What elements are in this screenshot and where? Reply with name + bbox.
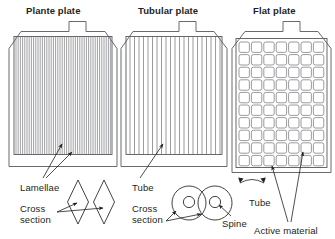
tubular-cross-section-shapes (172, 186, 232, 220)
lamellae-label: Lamellae (20, 182, 59, 193)
plante-plate-outline (9, 22, 117, 167)
battery-plate-types-diagram: Plante plate Tubular plate Flat plate La… (0, 0, 335, 239)
plante-cross-section-shapes (68, 180, 115, 224)
plante-plate-title: Plante plate (26, 5, 81, 16)
flat-tube-label: Tube (249, 197, 271, 208)
flat-tube-brace (238, 178, 266, 183)
flat-plate-grid-cells (239, 42, 324, 166)
tubular-tube-label: Tube (132, 182, 154, 193)
tubular-plate-title: Tubular plate (138, 5, 198, 16)
cross-word: Cross (132, 203, 157, 214)
flat-plate-title: Flat plate (253, 5, 296, 16)
tubular-cross-section-label: Cross section (132, 203, 163, 225)
active-material-leader-lines (272, 152, 303, 222)
tubular-tube-stripes (130, 37, 220, 154)
spine-label: Spine (222, 218, 247, 229)
section-word: section (20, 214, 51, 225)
plante-lamellae-stripes (16, 37, 110, 154)
plante-cross-section-label: Cross section (20, 203, 51, 225)
tubular-tubes-area (126, 37, 222, 155)
cross-word: Cross (20, 203, 45, 214)
flat-plate-outline (232, 22, 331, 173)
section-word: section (132, 214, 163, 225)
active-material-label: Active material (254, 225, 318, 236)
